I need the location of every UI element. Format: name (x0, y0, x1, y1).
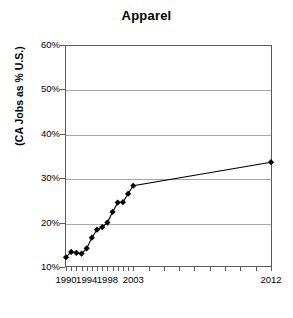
x-axis-tick-mark (133, 267, 134, 271)
y-axis-tick-label: 40% (26, 129, 60, 139)
x-axis-tick-mark (76, 267, 77, 271)
x-axis-tick-mark (87, 267, 88, 271)
gridline (66, 224, 271, 225)
gridline (66, 135, 271, 136)
x-axis-tick-mark (256, 267, 257, 271)
x-axis-tick-mark (82, 267, 83, 271)
x-axis-tick-mark (123, 267, 124, 271)
y-axis-tick-label: 30% (26, 173, 60, 183)
x-axis-tick-mark (179, 267, 180, 271)
x-axis-tick-mark (271, 267, 272, 271)
y-axis-tick-label: 50% (26, 84, 60, 94)
x-axis-tick-mark (118, 267, 119, 271)
x-axis-tick-mark (240, 267, 241, 271)
x-axis-tick-label: 2003 (113, 274, 153, 285)
chart-title: Apparel (0, 8, 293, 23)
y-axis-tick-label: 20% (26, 218, 60, 228)
x-axis-tick-mark (149, 267, 150, 271)
gridline (66, 90, 271, 91)
x-axis-tick-mark (71, 267, 72, 271)
x-axis-tick-mark (164, 267, 165, 271)
y-axis-tick-label: 60% (26, 40, 60, 50)
x-axis-tick-mark (194, 267, 195, 271)
y-axis-label: (CA Jobs as % U.S.) (8, 6, 30, 186)
x-axis-tick-mark (225, 267, 226, 271)
x-axis-tick-mark (97, 267, 98, 271)
x-axis-tick-mark (128, 267, 129, 271)
chart-figure: Apparel (CA Jobs as % U.S.) 10%20%30%40%… (0, 0, 293, 318)
y-axis-tick-mark (60, 267, 65, 268)
x-axis-tick-mark (113, 267, 114, 271)
y-axis-tick-label: 10% (26, 262, 60, 272)
gridline (66, 179, 271, 180)
plot-area (65, 45, 272, 267)
x-axis-tick-mark (66, 267, 67, 271)
x-axis-tick-label: 2012 (251, 274, 291, 285)
x-axis-tick-mark (107, 267, 108, 271)
x-axis-tick-mark (210, 267, 211, 271)
x-axis-tick-mark (92, 267, 93, 271)
x-axis-tick-mark (102, 267, 103, 271)
y-axis-label-container: (CA Jobs as % U.S.) (8, 6, 30, 186)
